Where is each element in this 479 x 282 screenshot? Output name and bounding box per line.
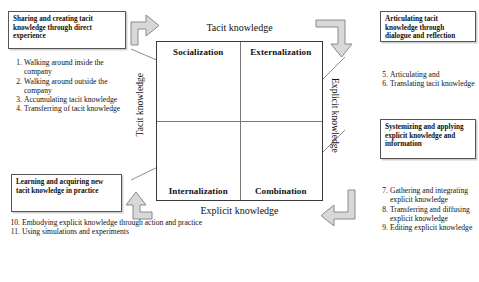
arrow-top-left-icon xyxy=(131,15,159,45)
list-item: 4. Transferring of tacit knowledge xyxy=(12,104,126,113)
list-item-number: 9. xyxy=(378,223,388,232)
axis-label-right: Explicit knowledge xyxy=(330,78,341,153)
list-item-number: 7. xyxy=(378,186,388,205)
quadrant-internalization[interactable]: Internalization xyxy=(157,121,240,200)
quadrant-combination[interactable]: Combination xyxy=(240,121,323,200)
list-item: 5. Articulating and xyxy=(378,70,476,79)
list-item: 3. Accumulating tacit knowledge xyxy=(12,95,126,104)
quadrant-externalization[interactable]: Externalization xyxy=(240,42,323,121)
callout-articulating-tacit-knowledge: Articulating tacit knowledge through dia… xyxy=(380,11,476,42)
list-item-number: 1. xyxy=(12,58,22,77)
list-item-number: 6. xyxy=(378,79,388,88)
list-item-text: Walking around inside the company xyxy=(24,58,126,77)
list-item-number: 4. xyxy=(12,104,22,113)
list-item-number: 8. xyxy=(378,205,388,224)
list-item-text: Articulating and xyxy=(390,70,476,79)
list-item-text: Gathering and integrating explicit knowl… xyxy=(390,186,476,205)
list-item-text: Embodying explicit knowledge through act… xyxy=(22,218,240,227)
list-item: 11. Using simulations and experiments xyxy=(10,227,240,236)
list-item-text: Translating tacit knowledge xyxy=(390,79,476,88)
list-item-text: Accumulating tacit knowledge xyxy=(24,95,126,104)
quadrant-socialization-label: Socialization xyxy=(157,47,240,57)
list-tacit-activities: 1. Walking around inside the company 2. … xyxy=(12,58,126,114)
callout-systemizing-applying-explicit-knowledge: Systemizing and applying explicit knowle… xyxy=(380,119,476,159)
list-item-text: Transferring and diffusing explicit know… xyxy=(390,205,476,224)
list-item: 7. Gathering and integrating explicit kn… xyxy=(378,186,476,205)
list-item-number: 2. xyxy=(12,77,22,96)
list-item: 10. Embodying explicit knowledge through… xyxy=(10,218,240,227)
quadrant-externalization-label: Externalization xyxy=(240,47,323,57)
list-item: 6. Translating tacit knowledge xyxy=(378,79,476,88)
arrow-bottom-left-icon xyxy=(126,192,152,219)
quadrant-combination-label: Combination xyxy=(240,186,323,196)
list-item: 2. Walking around outside the company xyxy=(12,77,126,96)
axis-label-top: Tacit knowledge xyxy=(156,22,323,33)
list-item-number: 3. xyxy=(12,95,22,104)
list-item-text: Transferring of tacit knowledge xyxy=(24,104,126,113)
list-item-number: 10. xyxy=(10,218,20,227)
list-item-number: 11. xyxy=(10,227,20,236)
list-item: 9. Editing explicit knowledge xyxy=(378,223,476,232)
list-item-number: 5. xyxy=(378,70,388,79)
list-item: 8. Transferring and diffusing explicit k… xyxy=(378,205,476,224)
list-combination-activities: 7. Gathering and integrating explicit kn… xyxy=(378,186,476,232)
list-item-text: Walking around outside the company xyxy=(24,77,126,96)
seci-matrix: Socialization Externalization Internaliz… xyxy=(156,41,323,201)
quadrant-socialization[interactable]: Socialization xyxy=(157,42,240,121)
list-item-text: Using simulations and experiments xyxy=(22,227,240,236)
axis-label-left: Tacit knowledge xyxy=(134,73,145,137)
list-internalization-activities: 10. Embodying explicit knowledge through… xyxy=(10,218,240,237)
callout-sharing-creating-tacit-knowledge: Sharing and creating tacit knowledge thr… xyxy=(8,11,126,49)
callout-learning-acquiring-tacit-knowledge: Learning and acquiring new tacit knowled… xyxy=(11,174,122,212)
arrow-bottom-right-icon xyxy=(321,190,355,226)
axis-label-bottom: Explicit knowledge xyxy=(156,205,323,216)
list-externalization-activities: 5. Articulating and 6. Translating tacit… xyxy=(378,70,476,89)
quadrant-internalization-label: Internalization xyxy=(157,186,240,196)
list-item-text: Editing explicit knowledge xyxy=(390,223,476,232)
diagram-canvas: i i i i i i i i i G xyxy=(0,0,479,282)
list-item: 1. Walking around inside the company xyxy=(12,58,126,77)
